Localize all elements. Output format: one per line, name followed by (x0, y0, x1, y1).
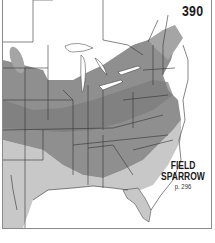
range-map: 390 FIELD SPARROW p. 296 (2, 0, 212, 229)
species-label: FIELD SPARROW p. 296 (153, 160, 212, 190)
page-reference: p. 296 (158, 183, 209, 190)
map-number: 390 (182, 3, 203, 19)
species-name-line2: SPARROW (158, 171, 209, 182)
range-map-graphic (3, 0, 211, 228)
species-name-line1: FIELD (158, 160, 209, 171)
